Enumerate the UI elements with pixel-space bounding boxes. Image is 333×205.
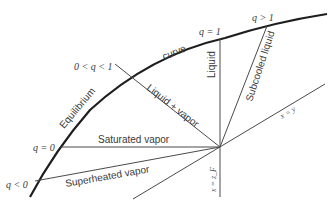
label-liquid: Liquid (206, 51, 217, 78)
label-feed: x = z_F (209, 167, 218, 193)
label-q-eq-0: q = 0 (33, 142, 55, 153)
label-q-less-0: q < 0 (6, 179, 28, 190)
label-diagonal: x = y (278, 104, 298, 121)
label-curve: curve (161, 42, 188, 62)
label-subcooled-liquid: Subcooled liquid (243, 29, 276, 102)
label-q-eq-1: q = 1 (199, 26, 221, 37)
q-line-diagram: q < 0 q = 0 0 < q < 1 q = 1 q > 1 Equili… (0, 0, 333, 205)
label-saturated-vapor: Saturated vapor (98, 134, 170, 145)
label-q-between: 0 < q < 1 (74, 61, 113, 72)
label-q-greater-1: q > 1 (252, 12, 274, 23)
subcooled-q-line (220, 26, 267, 147)
label-liquid-vapor: Liquid + vapor (145, 82, 202, 130)
label-superheated-vapor: Superheated vapor (64, 163, 150, 189)
